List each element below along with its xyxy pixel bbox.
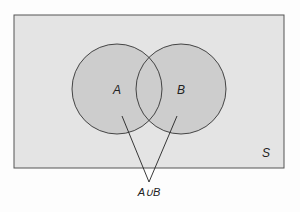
universe-label-s: S	[262, 146, 270, 160]
venn-svg: A B S A∪B	[0, 0, 300, 212]
union-label: A∪B	[137, 186, 161, 198]
set-a-label: A	[112, 83, 121, 97]
set-b-label: B	[177, 83, 185, 97]
venn-diagram: A B S A∪B	[0, 0, 300, 212]
